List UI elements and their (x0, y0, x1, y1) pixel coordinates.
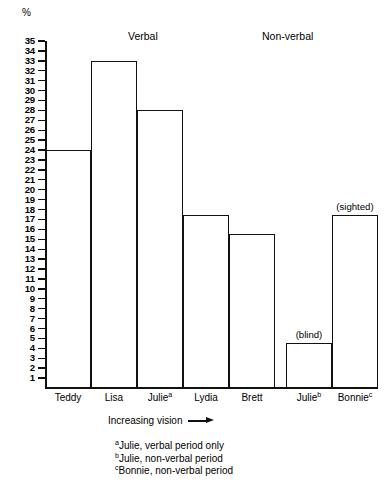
right-arrow-icon (188, 417, 214, 425)
y-tick-mark (38, 298, 45, 299)
y-tick-mark (38, 189, 45, 190)
y-tick-mark (38, 278, 45, 279)
y-tick-mark (38, 169, 45, 170)
y-tick-label: 21 (11, 175, 35, 185)
y-tick-mark (38, 348, 45, 349)
y-tick-mark (38, 50, 45, 51)
y-tick-mark (38, 149, 45, 150)
y-tick-label: 33 (11, 56, 35, 66)
y-axis-unit-label: % (22, 8, 31, 18)
y-tick-mark (38, 130, 45, 131)
bar-lisa (91, 61, 137, 388)
y-tick-label: 7 (11, 314, 35, 324)
bar-lydia (183, 215, 229, 389)
y-tick-mark (38, 70, 45, 71)
y-tick-mark (38, 110, 45, 111)
group-header-verbal: Verbal (128, 30, 158, 42)
y-tick-mark (38, 139, 45, 140)
y-tick-mark (38, 249, 45, 250)
y-tick-mark (38, 229, 45, 230)
y-tick-label: 9 (11, 294, 35, 304)
bar-julie-b (286, 343, 332, 388)
y-tick-mark (38, 367, 45, 368)
y-tick-mark (38, 308, 45, 309)
group-header-non-verbal: Non-verbal (262, 30, 313, 42)
y-tick-mark (38, 100, 45, 101)
y-tick-mark (38, 90, 45, 91)
y-tick-label: 8 (11, 304, 35, 314)
y-tick-mark (38, 258, 45, 259)
x-axis-caption: Increasing vision (108, 415, 214, 427)
footnote: cBonnie, non-verbal period (115, 465, 233, 478)
x-tick-label: Bonniec (322, 392, 388, 404)
footnote-list: aJulie, verbal period onlybJulie, non-ve… (115, 440, 233, 478)
y-tick-mark (38, 338, 45, 339)
y-tick-mark (38, 288, 45, 289)
y-tick-label: 32 (11, 66, 35, 76)
footnote: bJulie, non-verbal period (115, 453, 233, 466)
footnote: aJulie, verbal period only (115, 440, 233, 453)
y-tick-mark (38, 60, 45, 61)
bar-julie-a (137, 110, 183, 388)
y-tick-mark (38, 159, 45, 160)
y-tick-mark (38, 239, 45, 240)
bar-annotation: (sighted) (320, 201, 388, 212)
y-tick-mark (38, 40, 45, 41)
y-tick-label: 19 (11, 195, 35, 205)
y-tick-mark (38, 268, 45, 269)
chart-figure: % Verbal Non-verbal 35343332313029282726… (0, 0, 388, 490)
y-tick-mark (38, 120, 45, 121)
y-tick-mark (38, 318, 45, 319)
y-tick-label: 20 (11, 185, 35, 195)
bar-brett (229, 234, 275, 388)
bar-bonnie-c (332, 215, 378, 389)
y-tick-label: 31 (11, 76, 35, 86)
y-tick-mark (38, 80, 45, 81)
increasing-vision-label: Increasing vision (108, 415, 182, 427)
y-tick-mark (38, 209, 45, 210)
y-tick-mark (38, 219, 45, 220)
y-tick-mark (38, 377, 45, 378)
y-tick-label: 1 (11, 373, 35, 383)
y-tick-mark (38, 358, 45, 359)
y-tick-mark (38, 328, 45, 329)
y-tick-mark (38, 179, 45, 180)
bar-teddy (45, 150, 91, 388)
y-tick-label: 10 (11, 284, 35, 294)
y-tick-mark (38, 199, 45, 200)
